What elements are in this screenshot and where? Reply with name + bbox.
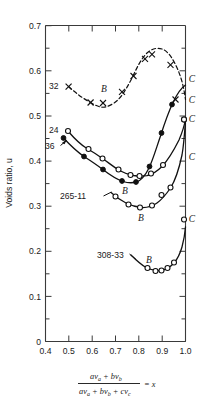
series-36-end-label: C (189, 74, 196, 84)
marker-open-circle (182, 117, 187, 122)
marker-open-circle (137, 174, 142, 179)
y-tick-label: 0.7 (29, 21, 41, 31)
x-tick-label: 0.7 (110, 346, 122, 356)
y-tick-label: 0.1 (29, 292, 41, 302)
y-tick-label: 0.3 (29, 201, 41, 211)
voids-ratio-chart: 0 0.1 0.2 0.3 0.4 0.5 0.6 0.7 0.4 0.5 0.… (0, 0, 211, 408)
x-tick-label: 0.6 (86, 346, 98, 356)
x-tick-label: 0.8 (133, 346, 145, 356)
marker-open-circle (86, 147, 91, 152)
marker-filled-circle (134, 180, 139, 185)
marker-open-circle (126, 202, 131, 207)
y-tick-label: 0.4 (29, 156, 41, 166)
marker-filled-circle (120, 179, 125, 184)
series-label-36: 36 (45, 141, 55, 151)
series-32-end-label: C (189, 95, 196, 105)
x-tick-label: 0.5 (63, 346, 75, 356)
formula-den-sub3: c (128, 391, 131, 397)
x-tick-label: 0.4 (40, 346, 52, 356)
series-308-end-label: C (189, 214, 196, 224)
marker-open-circle (182, 217, 187, 222)
marker-open-circle (149, 171, 154, 176)
marker-open-circle (128, 173, 133, 178)
chart-figure: 0 0.1 0.2 0.3 0.4 0.5 0.6 0.7 0.4 0.5 0.… (0, 0, 211, 408)
y-tick-label: 0.5 (29, 111, 41, 121)
marker-open-circle (138, 205, 143, 210)
marker-filled-circle (82, 154, 87, 159)
series-265-min-label: B (138, 213, 144, 223)
formula-numerator: ava + bvb (90, 372, 122, 382)
formula-num-sub2: b (119, 376, 122, 382)
series-label-24: 24 (49, 125, 59, 135)
y-tick-label: 0.6 (29, 66, 41, 76)
marker-open-circle (172, 260, 177, 265)
series-label-265-11: 265-11 (60, 191, 86, 201)
marker-filled-circle (147, 164, 152, 169)
marker-open-circle (153, 269, 158, 274)
marker-open-circle (145, 266, 150, 271)
series-label-32: 32 (49, 81, 59, 91)
series-32-min-label: B (101, 84, 107, 94)
marker-filled-circle (61, 136, 66, 141)
series-265-end-label: C (189, 152, 196, 162)
marker-open-circle (165, 266, 170, 271)
series-24-end-label: C (189, 114, 196, 124)
marker-open-circle (66, 129, 71, 134)
marker-filled-circle (170, 102, 175, 107)
marker-open-circle (100, 156, 105, 161)
x-tick-label: 0.9 (156, 346, 168, 356)
series-label-308-33: 308-33 (97, 250, 124, 260)
marker-open-circle (168, 185, 173, 190)
x-tick-label: 1.0 (180, 346, 192, 356)
marker-open-circle (116, 167, 121, 172)
series-36-min-label: B (122, 186, 128, 196)
y-axis-title: Voids ratio, u (4, 158, 14, 208)
marker-open-circle (161, 163, 166, 168)
y-tick-label: 0.2 (29, 246, 41, 256)
marker-open-circle (159, 193, 164, 198)
marker-filled-circle (101, 167, 106, 172)
marker-open-circle (113, 194, 118, 199)
marker-filled-circle (159, 131, 164, 136)
marker-open-circle (150, 203, 155, 208)
series-308-min-label: B (146, 255, 152, 265)
formula-equals-x: = x (144, 380, 156, 389)
formula-denominator: ava + bvb + cvc (79, 387, 131, 397)
marker-open-circle (159, 268, 164, 273)
